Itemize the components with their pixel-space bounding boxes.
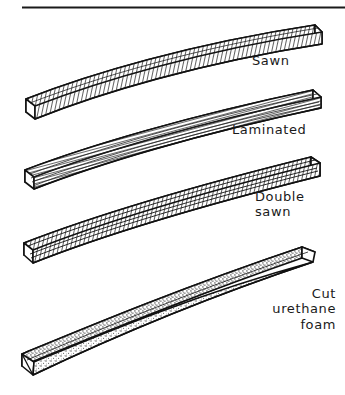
label-sawn: Sawn [252, 53, 290, 68]
label-double-sawn: Double sawn [255, 189, 305, 220]
label-laminated: Laminated [232, 122, 306, 137]
figure-canvas: Sawn Laminated Double sawn Cut urethane … [0, 0, 345, 395]
label-cut-urethane-foam: Cut urethane foam [250, 286, 336, 332]
